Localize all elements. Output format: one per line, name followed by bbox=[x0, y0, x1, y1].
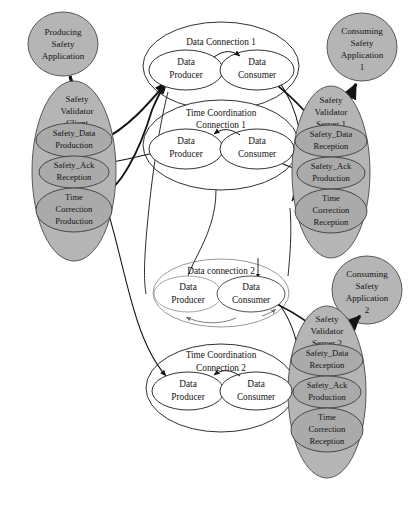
endpoint-label-line-1: Data bbox=[242, 282, 260, 292]
slot-label-line-2: Reception bbox=[314, 141, 350, 151]
node-safety-validator-server-1[interactable]: Safety Validator Server 1 Safety_Data Re… bbox=[292, 86, 370, 258]
endpoint-dc1-data-producer[interactable]: Data Producer bbox=[149, 50, 223, 90]
slot-safety-ack-reception[interactable]: Safety_Ack Reception bbox=[39, 156, 109, 188]
endpoint-label-line-1: Data bbox=[248, 136, 266, 146]
app-label-line-2: Safety bbox=[356, 281, 379, 291]
slot-label-line-1: Safety_Data bbox=[310, 129, 353, 139]
slot-label-line-2: Production bbox=[308, 392, 346, 402]
validator-label-line-1: Safety bbox=[316, 314, 339, 324]
connection-diagram: Data Connection 1 Time Coordination Conn… bbox=[0, 0, 418, 510]
slot-label-line-2: Correction bbox=[313, 205, 350, 215]
endpoint-label-line-2: Producer bbox=[169, 70, 203, 80]
slot-label-line-1: Time bbox=[322, 193, 340, 203]
slot-safety-data-reception-2[interactable]: Safety_Data Reception bbox=[291, 344, 363, 376]
endpoint-label-line-2: Consumer bbox=[237, 392, 276, 402]
slot-label-line-2: Correction bbox=[56, 204, 93, 214]
slot-safety-data-reception-1[interactable]: Safety_Data Reception bbox=[295, 125, 367, 157]
slot-time-correction-reception-1[interactable]: Time Correction Reception bbox=[295, 189, 367, 233]
slot-time-correction-production[interactable]: Time Correction Production bbox=[36, 188, 112, 232]
slot-label-line-3: Production bbox=[55, 216, 93, 226]
endpoint-label-line-2: Consumer bbox=[238, 70, 277, 80]
slot-label-line-3: Reception bbox=[314, 217, 350, 227]
app-label-line-2: Safety bbox=[351, 38, 374, 48]
endpoint-label-line-1: Data bbox=[248, 57, 266, 67]
slot-label-line-2: Reception bbox=[57, 172, 93, 182]
validator-label-line-2: Validator bbox=[61, 106, 94, 116]
endpoint-dc1-data-consumer[interactable]: Data Consumer bbox=[220, 50, 294, 90]
endpoint-label-line-1: Data bbox=[179, 379, 197, 389]
slot-label-line-1: Safety_Data bbox=[306, 348, 349, 358]
endpoint-dc2-data-producer[interactable]: Data Producer bbox=[154, 276, 222, 312]
app-label-line-1: Producing bbox=[45, 27, 82, 37]
slot-safety-ack-production-2[interactable]: Safety_Ack Production bbox=[293, 376, 361, 408]
slot-label-line-1: Safety_Ack bbox=[54, 160, 95, 170]
endpoint-label-line-1: Data bbox=[177, 57, 195, 67]
slot-time-correction-reception-2[interactable]: Time Correction Reception bbox=[291, 408, 363, 452]
endpoint-label-line-2: Consumer bbox=[232, 295, 271, 305]
app-label-line-3: Application bbox=[346, 293, 389, 303]
slot-label-line-2: Reception bbox=[310, 360, 346, 370]
app-label-line-4: 1 bbox=[360, 62, 365, 72]
endpoint-shape bbox=[220, 372, 292, 410]
slot-label-line-1: Safety_Ack bbox=[311, 161, 352, 171]
validator-label-line-2: Validator bbox=[311, 326, 344, 336]
slot-label-line-3: Reception bbox=[310, 436, 346, 446]
connection-title-line-1: Time Coordination bbox=[186, 108, 257, 118]
slot-label-line-1: Safety_Data bbox=[53, 128, 96, 138]
endpoint-tcc1-data-consumer[interactable]: Data Consumer bbox=[220, 129, 294, 169]
slot-safety-data-production[interactable]: Safety_Data Production bbox=[36, 123, 112, 157]
validator-label-line-1: Safety bbox=[66, 94, 89, 104]
endpoint-tcc1-data-producer[interactable]: Data Producer bbox=[149, 129, 223, 169]
node-safety-validator-server-2[interactable]: Safety Validator Server 2 Safety_Data Re… bbox=[288, 306, 366, 478]
app-label-line-1: Consuming bbox=[341, 26, 383, 36]
endpoint-tcc2-data-consumer[interactable]: Data Consumer bbox=[220, 372, 292, 410]
endpoint-dc2-data-consumer[interactable]: Data Consumer bbox=[217, 276, 285, 312]
endpoint-label-line-2: Producer bbox=[171, 392, 205, 402]
validator-label-line-1: Safety bbox=[320, 95, 343, 105]
app-label-line-3: Application bbox=[341, 50, 384, 60]
node-consuming-safety-application-1[interactable]: Consuming Safety Application 1 bbox=[327, 13, 397, 81]
app-label-line-3: Application bbox=[42, 51, 85, 61]
slot-label-line-1: Time bbox=[65, 192, 83, 202]
endpoint-shape bbox=[152, 372, 224, 410]
endpoint-label-line-1: Data bbox=[247, 379, 265, 389]
connection-title: Data connection 2 bbox=[187, 266, 255, 276]
slot-label-line-1: Time bbox=[318, 412, 336, 422]
connection-title-line-1: Time Coordination bbox=[186, 350, 257, 360]
slot-label-line-2: Production bbox=[55, 140, 93, 150]
endpoint-label-line-2: Consumer bbox=[238, 149, 277, 159]
slot-label-line-2: Production bbox=[312, 173, 350, 183]
connection-title: Data Connection 1 bbox=[186, 37, 256, 47]
endpoint-tcc2-data-producer[interactable]: Data Producer bbox=[152, 372, 224, 410]
node-safety-validator-client[interactable]: Safety Validator Client Safety_Data Prod… bbox=[32, 81, 116, 261]
slot-safety-ack-production-1[interactable]: Safety_Ack Production bbox=[297, 157, 365, 189]
app-label-line-2: Safety bbox=[52, 39, 75, 49]
connection-title-line-2: Connection 1 bbox=[196, 120, 246, 130]
endpoint-label-line-1: Data bbox=[177, 136, 195, 146]
node-producing-safety-application[interactable]: Producing Safety Application bbox=[28, 12, 98, 76]
app-label-line-4: 2 bbox=[365, 305, 370, 315]
endpoint-label-line-1: Data bbox=[179, 282, 197, 292]
slot-label-line-1: Safety_Ack bbox=[307, 380, 348, 390]
endpoint-label-line-2: Producer bbox=[171, 295, 205, 305]
app-label-line-1: Consuming bbox=[346, 269, 388, 279]
slot-label-line-2: Correction bbox=[309, 424, 346, 434]
endpoint-label-line-2: Producer bbox=[169, 149, 203, 159]
validator-label-line-2: Validator bbox=[315, 107, 348, 117]
